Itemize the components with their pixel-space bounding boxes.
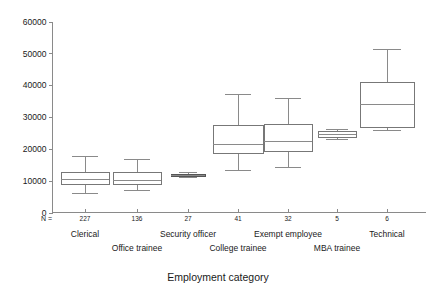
- n-count-value: 41: [234, 215, 242, 222]
- n-count-value: 5: [335, 215, 339, 222]
- box-plot-item: [318, 130, 356, 140]
- x-axis: [53, 209, 427, 213]
- y-tick-label: 60000: [23, 17, 47, 27]
- category-label: MBA trainee: [314, 243, 361, 253]
- category-label: Security officer: [160, 229, 216, 239]
- n-count-value: 6: [385, 215, 389, 222]
- x-tick-group: [85, 209, 387, 213]
- box-iqr: [61, 173, 109, 184]
- box-group: [61, 49, 414, 194]
- n-count-value: 27: [184, 215, 192, 222]
- category-label: Technical: [369, 229, 405, 239]
- n-count-group: 22713627413256: [80, 215, 390, 222]
- boxplot-svg: 0100002000030000400005000060000 N = 2271…: [0, 0, 430, 300]
- n-count-value: 136: [132, 215, 143, 222]
- y-tick-label: 40000: [23, 80, 47, 90]
- n-count-value: 32: [284, 215, 292, 222]
- boxplot-chart: 0100002000030000400005000060000 N = 2271…: [0, 0, 430, 300]
- y-tick-label: 20000: [23, 144, 47, 154]
- x-axis-title: Employment category: [167, 271, 269, 283]
- category-label-group: ClericalOffice traineeSecurity officerCo…: [71, 229, 405, 253]
- box-plot-item: [360, 49, 414, 130]
- y-tick-label: 10000: [23, 176, 47, 186]
- category-label: Exempt employee: [254, 229, 322, 239]
- box-plot-item: [213, 95, 263, 171]
- category-label: Clerical: [71, 229, 99, 239]
- box-iqr: [113, 173, 161, 184]
- box-plot-item: [61, 156, 109, 194]
- box-iqr: [264, 125, 312, 152]
- n-count-value: 227: [80, 215, 91, 222]
- n-row-header: N =: [41, 215, 52, 222]
- category-label: Office trainee: [112, 243, 163, 253]
- y-tick-label: 50000: [23, 49, 47, 59]
- box-plot-item: [264, 98, 312, 167]
- box-iqr: [213, 125, 263, 154]
- y-axis: 0100002000030000400005000060000: [23, 17, 53, 218]
- box-plot-item: [171, 173, 205, 178]
- category-label: College trainee: [209, 243, 266, 253]
- y-tick-label: 30000: [23, 112, 47, 122]
- y-tick-group: 0100002000030000400005000060000: [23, 17, 53, 218]
- box-plot-item: [113, 160, 161, 191]
